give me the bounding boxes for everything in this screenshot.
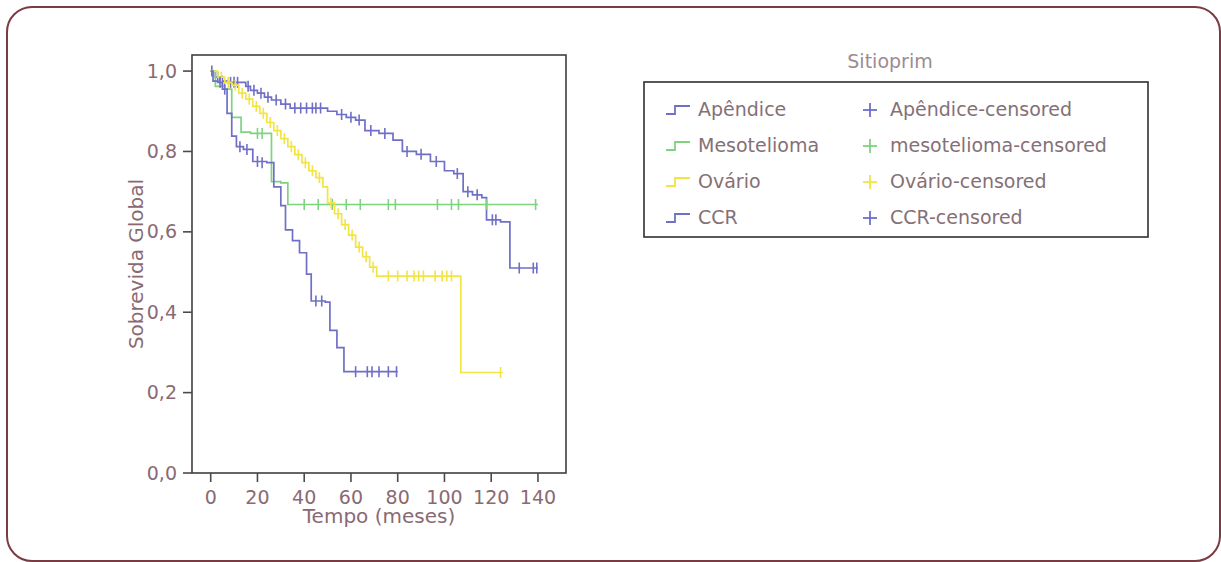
x-tick-label: 0	[205, 486, 217, 508]
legend-line-label: Ovário	[698, 170, 761, 192]
y-tick-label: 0,6	[147, 220, 177, 242]
legend-line-label: CCR	[698, 206, 738, 228]
y-tick-label: 0,2	[147, 381, 177, 403]
legend-line-label: Mesotelioma	[698, 134, 819, 156]
x-tick-label: 140	[520, 486, 556, 508]
y-tick-label: 0,8	[147, 140, 177, 162]
y-tick-label: 0,0	[147, 462, 177, 484]
x-tick-label: 20	[245, 486, 269, 508]
legend-censored-label: CCR-censored	[890, 206, 1023, 228]
legend-line-label: Apêndice	[698, 98, 786, 120]
legend-title: Sitioprim	[847, 50, 932, 72]
y-tick-label: 1,0	[147, 60, 177, 82]
x-tick-label: 120	[473, 486, 509, 508]
y-axis-title: Sobrevida Global	[124, 179, 148, 349]
legend-censored-label: mesotelioma-censored	[890, 134, 1107, 156]
x-axis: 020406080100120140	[205, 473, 556, 508]
y-tick-label: 0,4	[147, 301, 177, 323]
legend: Sitioprim ApêndiceApêndice-censoredMesot…	[644, 50, 1148, 237]
x-axis-title: Tempo (meses)	[302, 504, 455, 528]
y-axis: 0,00,20,40,60,81,0	[147, 60, 192, 484]
legend-censored-label: Ovário-censored	[890, 170, 1047, 192]
legend-censored-label: Apêndice-censored	[890, 98, 1072, 120]
